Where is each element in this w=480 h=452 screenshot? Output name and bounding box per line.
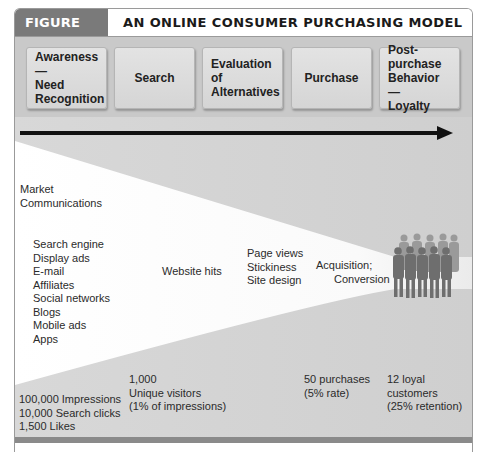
market-communications-label: Market Communications (20, 183, 102, 210)
timeline-arrow-shaft (20, 131, 440, 135)
acquisition-label: Acquisition; (316, 259, 372, 273)
bottom-rule (15, 437, 472, 443)
stage-purchase: Purchase (291, 47, 372, 109)
channels-list: Search engine Display ads E-mail Affilia… (33, 238, 110, 346)
loyal-customers-metrics: 12 loyal customers (25% retention) (387, 373, 462, 414)
figure-frame: FIGURE 6.11 AN ONLINE CONSUMER PURCHASIN… (14, 8, 473, 452)
figure-title: AN ONLINE CONSUMER PURCHASING MODEL (123, 9, 462, 36)
conversion-label: Conversion (334, 273, 390, 287)
purchases-metrics: 50 purchases (5% rate) (304, 373, 370, 400)
arrow-right-icon (437, 126, 453, 140)
site-factors-list: Page views Stickiness Site design (247, 247, 303, 288)
stage-search: Search (114, 47, 195, 109)
impressions-metrics: 100,000 Impressions 10,000 Search clicks… (19, 393, 121, 434)
visitors-metrics: 1,000 Unique visitors (1% of impressions… (129, 373, 226, 414)
group-of-people-icon (392, 232, 462, 302)
figure-header: FIGURE 6.11 AN ONLINE CONSUMER PURCHASIN… (15, 9, 472, 37)
stage-awareness: Awareness — Need Recognition (26, 47, 107, 109)
stage-evaluation: Evaluation of Alternatives (202, 47, 283, 109)
figure-number: FIGURE 6.11 (15, 9, 108, 36)
website-hits-label: Website hits (162, 265, 222, 279)
funnel-diagram: Market Communications Search engine Disp… (15, 117, 472, 437)
stage-post-purchase: Post-purchase Behavior — Loyalty (379, 47, 460, 109)
